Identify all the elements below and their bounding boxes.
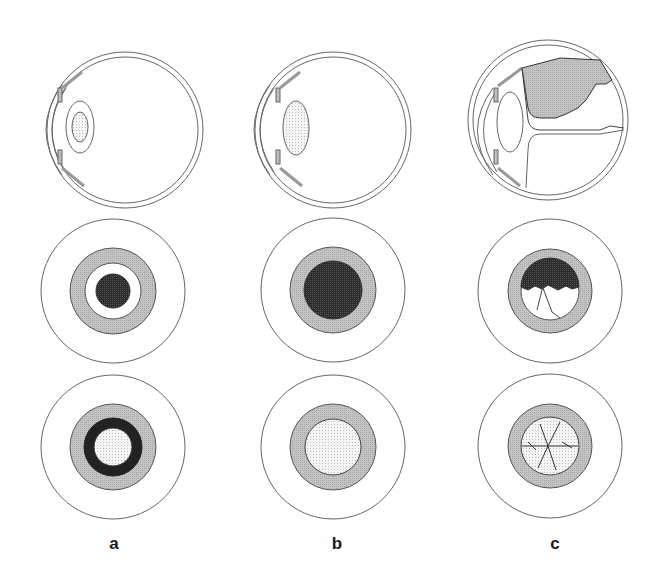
eye-diagram-figure [0, 0, 661, 581]
eye-section-c [468, 40, 628, 200]
eye-section-a [46, 52, 203, 208]
eye-section-b [254, 52, 411, 208]
frontal-view-c-row2 [478, 219, 622, 363]
frontal-view-b-row3 [261, 375, 405, 519]
panel-label-b: b [322, 534, 352, 554]
frontal-view-c-row3 [478, 374, 622, 518]
panel-label-a: a [99, 534, 129, 554]
frontal-view-b-row2 [261, 218, 405, 362]
frontal-view-a-row2 [41, 219, 185, 363]
panel-label-c: c [540, 534, 570, 554]
frontal-view-a-row3 [41, 375, 185, 519]
